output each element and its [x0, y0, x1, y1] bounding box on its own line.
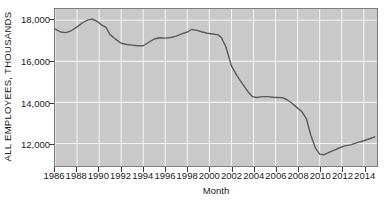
x-tick-mark [365, 167, 366, 172]
chart-figure: ALL EMPLOYEES, THOUSANDS 12,00014,00016,… [0, 0, 391, 209]
plot-svg [55, 9, 377, 166]
series-line-0 [55, 19, 375, 154]
x-tick-mark [98, 167, 99, 172]
y-tick-mark [49, 19, 54, 20]
x-tick-mark [276, 167, 277, 172]
data-series-group [55, 19, 375, 154]
x-tick-mark [209, 167, 210, 172]
plot-area [54, 8, 378, 167]
y-tick-label: 16,000 [21, 56, 50, 67]
y-tick-label: 14,000 [21, 97, 50, 108]
x-tick-mark [254, 167, 255, 172]
x-tick-mark [121, 167, 122, 172]
x-tick-mark [143, 167, 144, 172]
x-tick-mark [342, 167, 343, 172]
x-tick-mark [298, 167, 299, 172]
y-tick-label: 18,000 [21, 14, 50, 25]
x-tick-mark [165, 167, 166, 172]
x-tick-mark [187, 167, 188, 172]
y-tick-mark [49, 144, 54, 145]
y-axis-title-text: ALL EMPLOYEES, THOUSANDS [3, 11, 14, 161]
y-tick-mark [49, 61, 54, 62]
x-tick-mark [320, 167, 321, 172]
y-axis-title: ALL EMPLOYEES, THOUSANDS [0, 0, 16, 172]
x-axis-title: Month [54, 185, 378, 196]
x-tick-mark [76, 167, 77, 172]
y-tick-mark [49, 103, 54, 104]
x-tick-mark [54, 167, 55, 172]
y-tick-label: 12,000 [21, 139, 50, 150]
gridlines [55, 9, 377, 166]
x-tick-mark [232, 167, 233, 172]
